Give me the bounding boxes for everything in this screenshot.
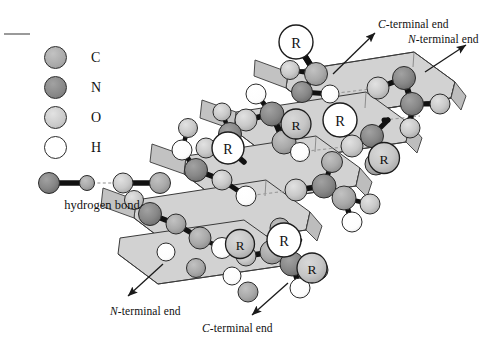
r-group: R bbox=[323, 103, 357, 137]
nitrogen-label: N bbox=[91, 81, 101, 95]
r-group: R bbox=[279, 25, 313, 59]
svg-text:R: R bbox=[223, 142, 233, 157]
hydrogen-swatch-icon bbox=[44, 136, 67, 159]
legend-item-hydrogen: H bbox=[44, 136, 101, 159]
r-group: R bbox=[226, 230, 255, 259]
legend-panel: C N O H hy bbox=[0, 0, 180, 230]
hydrogen-bond-caption: hydrogen bond bbox=[36, 198, 168, 213]
nitrogen-swatch-icon bbox=[44, 76, 67, 99]
carbon-swatch-icon bbox=[44, 46, 67, 69]
svg-text:R: R bbox=[291, 35, 301, 51]
legend-item-carbon: C bbox=[44, 46, 100, 69]
arrow-n-terminal-top bbox=[425, 45, 466, 72]
hydrogen-label: H bbox=[91, 141, 101, 155]
crop-mark bbox=[4, 33, 30, 35]
r-group: R bbox=[267, 223, 301, 257]
c-terminal-top-prefix: C bbox=[378, 18, 386, 30]
c-terminal-bottom-text: -terminal end bbox=[210, 322, 273, 334]
svg-text:R: R bbox=[307, 262, 316, 277]
r-group: R bbox=[212, 132, 244, 164]
oxygen-label: O bbox=[91, 111, 101, 125]
carbon-label: C bbox=[91, 51, 100, 65]
n-terminal-bottom-text: -terminal end bbox=[118, 305, 181, 317]
svg-text:R: R bbox=[335, 113, 345, 129]
figure-canvas: R R R R R R R R bbox=[0, 0, 487, 344]
svg-text:R: R bbox=[279, 233, 289, 249]
c-terminal-bottom-prefix: C bbox=[202, 322, 210, 334]
c-terminal-top-text: -terminal end bbox=[386, 18, 449, 30]
label-c-terminal-top: C-terminal end bbox=[378, 18, 449, 30]
r-group: R bbox=[369, 143, 400, 174]
label-n-terminal-bottom: N-terminal end bbox=[110, 305, 181, 317]
n-terminal-bottom-prefix: N bbox=[110, 305, 118, 317]
svg-text:R: R bbox=[236, 238, 245, 253]
label-c-terminal-bottom: C-terminal end bbox=[202, 322, 273, 334]
svg-text:R: R bbox=[379, 152, 388, 167]
n-terminal-top-prefix: N bbox=[408, 33, 416, 45]
n-terminal-top-text: -terminal end bbox=[416, 33, 479, 45]
oxygen-swatch-icon bbox=[44, 106, 67, 129]
r-group: R bbox=[297, 253, 327, 283]
legend-item-nitrogen: N bbox=[44, 76, 101, 99]
legend-item-oxygen: O bbox=[44, 106, 101, 129]
r-group: R bbox=[281, 109, 311, 139]
label-n-terminal-top: N-terminal end bbox=[408, 33, 479, 45]
svg-text:R: R bbox=[291, 118, 300, 133]
